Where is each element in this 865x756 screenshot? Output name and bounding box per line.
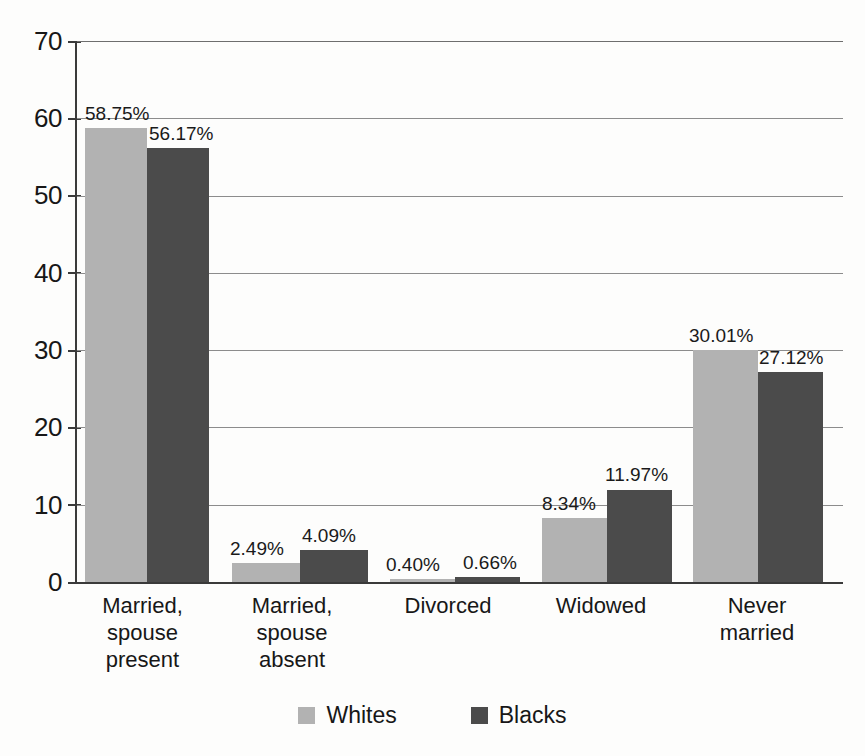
bar-value-blacks-married-spouse-present: 56.17% [149, 124, 213, 143]
x-axis-line [75, 582, 843, 584]
category-line: absent [222, 646, 362, 673]
legend-item-blacks: Blacks [471, 704, 567, 727]
y-tick-label: 50 [4, 182, 62, 208]
bar-value-whites-widowed: 8.34% [542, 494, 596, 513]
category-line: Divorced [375, 592, 521, 619]
bar-value-blacks-never-married: 27.12% [759, 348, 823, 367]
bar-whites-married-spouse-present [85, 128, 147, 582]
bar-value-whites-never-married: 30.01% [689, 326, 753, 345]
bar-whites-married-spouse-absent [232, 563, 300, 582]
category-line: spouse [222, 619, 362, 646]
chart-legend: Whites Blacks [0, 704, 865, 727]
plot-area: 58.75% 56.17% 2.49% 4.09% 0.40% 0.66% 8.… [75, 41, 843, 582]
bar-value-blacks-divorced: 0.66% [463, 553, 517, 572]
y-axis-line [75, 41, 77, 583]
y-tick-label: 0 [4, 569, 62, 595]
y-tick-label: 20 [4, 414, 62, 440]
x-category-label-married-spouse-absent: Married, spouse absent [222, 592, 362, 673]
legend-label-blacks: Blacks [499, 704, 567, 727]
category-line: Married, [75, 592, 210, 619]
bar-value-blacks-widowed: 11.97% [605, 465, 668, 484]
x-category-label-never-married: Never married [684, 592, 830, 646]
bar-blacks-widowed [607, 490, 672, 583]
bar-blacks-married-spouse-present [147, 148, 209, 582]
bar-value-whites-married-spouse-absent: 2.49% [230, 539, 284, 558]
bar-chart: 70 60 50 40 30 20 10 0 [0, 0, 865, 756]
bar-blacks-married-spouse-absent [300, 550, 368, 582]
bar-whites-widowed [542, 518, 607, 582]
category-line: present [75, 646, 210, 673]
legend-swatch-icon-whites [298, 707, 315, 724]
category-line: spouse [75, 619, 210, 646]
legend-label-whites: Whites [326, 704, 396, 727]
bar-value-whites-divorced: 0.40% [386, 555, 440, 574]
gridline-60 [75, 118, 843, 119]
y-tick-label: 60 [4, 105, 62, 131]
gridline-70 [75, 41, 843, 42]
x-category-label-married-spouse-present: Married, spouse present [75, 592, 210, 673]
bar-value-whites-married-spouse-present: 58.75% [85, 104, 149, 123]
y-tick-label: 40 [4, 260, 62, 286]
bar-whites-never-married [693, 350, 758, 582]
legend-swatch-icon-blacks [471, 707, 488, 724]
category-line: married [684, 619, 830, 646]
y-tick-label: 30 [4, 337, 62, 363]
y-tick-label: 10 [4, 492, 62, 518]
y-tick-label: 70 [4, 28, 62, 54]
legend-item-whites: Whites [298, 704, 396, 727]
category-line: Widowed [528, 592, 674, 619]
bar-blacks-never-married [758, 372, 823, 582]
category-line: Married, [222, 592, 362, 619]
bar-value-blacks-married-spouse-absent: 4.09% [302, 526, 356, 545]
x-category-label-widowed: Widowed [528, 592, 674, 619]
x-category-label-divorced: Divorced [375, 592, 521, 619]
category-line: Never [684, 592, 830, 619]
